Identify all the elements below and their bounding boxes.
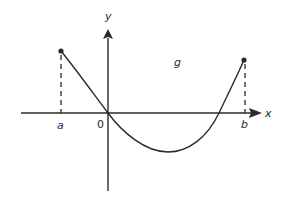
x-axis-label: x — [264, 107, 272, 120]
point-b-label: b — [241, 118, 248, 131]
origin-label: 0 — [97, 118, 104, 131]
y-axis-arrow-icon — [103, 29, 113, 39]
y-axis-label: y — [104, 10, 112, 23]
endpoint-b-dot — [241, 57, 246, 62]
point-a-label: a — [57, 119, 64, 132]
curve-g — [61, 51, 244, 152]
endpoint-a-dot — [58, 48, 63, 53]
function-label: g — [174, 56, 181, 69]
function-graph: y g a 0 b x — [0, 0, 286, 207]
